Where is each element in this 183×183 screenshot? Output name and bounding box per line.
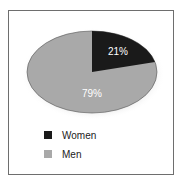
legend-swatch-men [44, 150, 52, 158]
pie-label-men: 79% [82, 88, 102, 99]
legend-label-men: Men [62, 149, 81, 160]
pie-label-women: 21% [108, 46, 128, 57]
legend-label-women: Women [62, 130, 96, 141]
legend-item-men: Men [44, 147, 96, 161]
legend: Women Men [44, 128, 96, 166]
legend-item-women: Women [44, 128, 96, 142]
legend-swatch-women [44, 131, 52, 139]
